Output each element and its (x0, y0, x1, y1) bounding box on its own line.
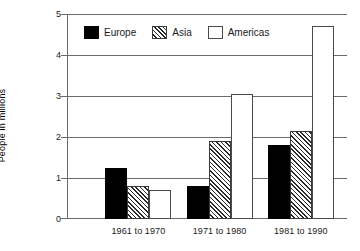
y-axis-title: People in millions (0, 0, 20, 251)
legend-label: Asia (172, 27, 191, 38)
y-tick-label: 3 (41, 91, 61, 101)
bar-asia-1 (209, 141, 231, 219)
bar-asia-0 (127, 186, 149, 219)
x-tick-label: 1961 to 1970 (112, 226, 166, 236)
legend-item-europe[interactable]: Europe (84, 26, 136, 39)
bar-asia-2 (290, 131, 312, 219)
bar-europe-2 (268, 145, 290, 219)
y-tick-label: 0 (41, 214, 61, 224)
bar-americas-1 (231, 94, 253, 219)
legend-swatch-europe-icon (84, 26, 99, 39)
x-tick-label: 1971 to 1980 (193, 226, 247, 236)
y-axis-tick-labels: 5 4 3 2 1 0 (39, 14, 61, 219)
x-axis-tick-labels: 1961 to 19701971 to 19801981 to 1990 (67, 226, 347, 240)
bar-americas-0 (149, 190, 171, 219)
bar-europe-1 (187, 186, 209, 219)
y-tick-label: 1 (41, 173, 61, 183)
legend-item-americas[interactable]: Americas (208, 26, 270, 39)
y-tick-label: 2 (41, 132, 61, 142)
plot-area (67, 14, 347, 219)
bar-chart-figure: People in millions 5 4 3 2 1 0 1961 to 1… (0, 0, 360, 251)
y-tick-label: 4 (41, 50, 61, 60)
legend-item-asia[interactable]: Asia (152, 26, 191, 39)
bar-americas-2 (312, 26, 334, 219)
chart-legend: EuropeAsiaAmericas (84, 26, 285, 39)
bars-layer (67, 14, 347, 219)
legend-label: Europe (104, 27, 136, 38)
legend-swatch-asia-icon (152, 26, 167, 39)
x-tick-label: 1981 to 1990 (274, 226, 328, 236)
legend-label: Americas (228, 27, 270, 38)
legend-swatch-americas-icon (208, 26, 223, 39)
bar-europe-0 (105, 168, 127, 219)
y-tick-label: 5 (41, 9, 61, 19)
